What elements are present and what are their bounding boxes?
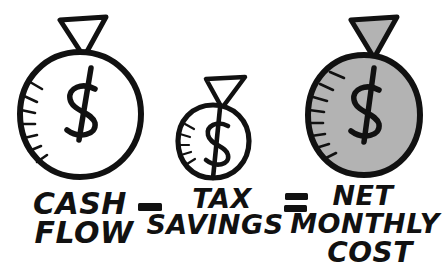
label-line-savings: SAVINGS xyxy=(146,209,283,240)
equals-sign-bar-top xyxy=(285,193,308,200)
label-line-cost: COST xyxy=(327,236,414,269)
bag-tie-icon xyxy=(351,17,397,58)
money-bag-equation-illustration: CASH FLOW TAX SAVINGS NET MONTHLY COST xyxy=(0,0,444,275)
label-tax-savings: TAX SAVINGS xyxy=(146,183,283,240)
label-line-flow: FLOW xyxy=(34,215,135,250)
diagram-canvas: CASH FLOW TAX SAVINGS NET MONTHLY COST xyxy=(0,0,444,275)
money-bag-icon xyxy=(308,55,420,175)
label-net-monthly-cost: NET MONTHLY COST xyxy=(290,180,441,269)
label-line-monthly: MONTHLY xyxy=(290,208,441,239)
term-tax-savings xyxy=(178,77,249,178)
term-cash-flow xyxy=(20,17,141,177)
term-net-monthly-cost xyxy=(308,17,420,175)
label-line-net: NET xyxy=(333,180,396,211)
label-cash-flow: CASH FLOW xyxy=(33,186,135,250)
